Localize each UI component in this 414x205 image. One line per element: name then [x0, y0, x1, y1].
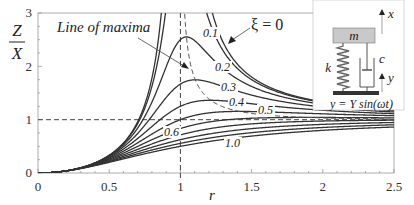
maxima-arrowhead-icon [181, 62, 189, 69]
base-motion-equation: y = Y sin(ωt) [329, 97, 393, 111]
curve-xi-0.6 [38, 117, 394, 173]
base-excitation-diagram: m k c x y y = Y sin(ωt) [313, 0, 404, 111]
curve-xi-0.7 [38, 120, 394, 173]
x-tick-2.5: 2.5 [386, 179, 402, 194]
mass-label: m [349, 28, 358, 43]
xi-zero-arrow-line [232, 28, 250, 40]
curve-label-0.5: 0.5 [258, 103, 273, 117]
y-tick-2: 2 [26, 59, 33, 74]
x-tick-2: 2 [320, 179, 327, 194]
curve-xi-0.8 [38, 123, 394, 174]
y-axis-numerator: Z [12, 21, 22, 40]
curve-xi-1 [38, 127, 394, 173]
curve-label-0.1: 0.1 [203, 26, 218, 40]
damper-label: c [379, 51, 385, 66]
curve-label-0.4: 0.4 [229, 95, 244, 109]
xi-zero-arrowhead-icon [228, 36, 236, 44]
y-tick-0: 0 [26, 165, 33, 180]
y-axis-denominator: X [11, 44, 23, 63]
x-displacement-label: x [387, 6, 394, 21]
x-axis-label: r [209, 187, 215, 203]
xi-zero-label: ξ = 0 [251, 16, 283, 33]
y-tick-1: 1 [26, 112, 33, 127]
curve-label-0.6: 0.6 [164, 125, 179, 139]
x-tick-1: 1 [177, 179, 184, 194]
x-tick-0.5: 0.5 [101, 179, 117, 194]
curve-label-1.0: 1.0 [225, 136, 240, 150]
y-tick-3: 3 [26, 5, 33, 20]
x-tick-0: 0 [35, 179, 42, 194]
curve-label-0.2: 0.2 [215, 60, 230, 74]
line-of-maxima-label: Line of maxima [56, 19, 150, 35]
base-platform [333, 91, 379, 95]
curve-label-0.3: 0.3 [221, 80, 236, 94]
transmissibility-chart: 0 0.5 1 1.5 2 2.5 0 1 2 3 Z X r Line of … [0, 0, 414, 205]
spring-label: k [325, 60, 331, 75]
y-displacement-label: y [386, 70, 394, 85]
x-tick-1.5: 1.5 [243, 179, 259, 194]
